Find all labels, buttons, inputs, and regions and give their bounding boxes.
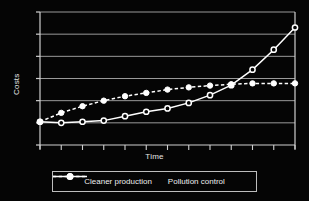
x-axis [40, 145, 295, 150]
legend-item-pollution-control: Pollution control [168, 177, 225, 186]
legend-swatch-solid-filled-circle [53, 172, 87, 181]
data-series [37, 25, 297, 126]
chart-container: Costs Time Cleaner production Pollution … [0, 0, 309, 201]
chart-legend: Cleaner production Pollution control [52, 171, 257, 192]
legend-item-cleaner-production: Cleaner production [84, 177, 152, 186]
plot-frame [40, 12, 295, 149]
legend-label-pollution-control: Pollution control [168, 177, 225, 186]
legend-label-cleaner-production: Cleaner production [84, 177, 152, 186]
